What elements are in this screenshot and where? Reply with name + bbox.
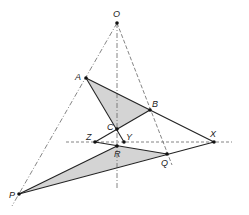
label-y: Y: [126, 132, 133, 142]
label-o: O: [113, 9, 120, 19]
point-r: [115, 144, 119, 148]
triangle-pqr: [19, 146, 167, 194]
label-c: C: [107, 122, 114, 132]
label-x: X: [209, 129, 217, 139]
point-p: [17, 192, 21, 196]
line-oq: [117, 23, 172, 165]
label-q: Q: [161, 158, 168, 168]
point-c: [115, 127, 119, 131]
label-p: P: [9, 190, 15, 200]
label-a: A: [74, 72, 81, 82]
point-q: [165, 152, 169, 156]
point-z: [93, 140, 97, 144]
desargues-diagram: O A B C Z Y R Q X P: [0, 0, 249, 215]
label-r: R: [114, 149, 121, 159]
point-x: [212, 140, 216, 144]
triangle-abc: [86, 78, 150, 129]
label-z: Z: [85, 132, 92, 142]
label-b: B: [152, 99, 158, 109]
point-a: [84, 76, 88, 80]
point-o: [115, 21, 119, 25]
